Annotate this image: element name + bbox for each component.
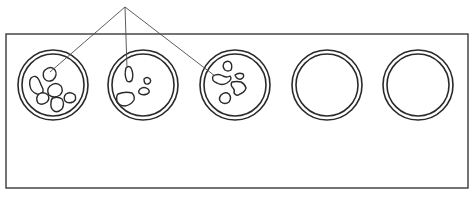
particle [37,93,49,105]
particle [48,84,63,98]
well-plate-diagram [0,0,475,203]
particle [43,68,56,82]
particle [235,73,244,79]
particle [125,67,133,82]
particle [223,61,232,71]
particle [144,78,151,85]
diagram-stage [0,0,475,203]
particle [51,97,64,111]
particle [64,93,75,103]
particle [220,93,231,104]
particle [139,88,150,95]
